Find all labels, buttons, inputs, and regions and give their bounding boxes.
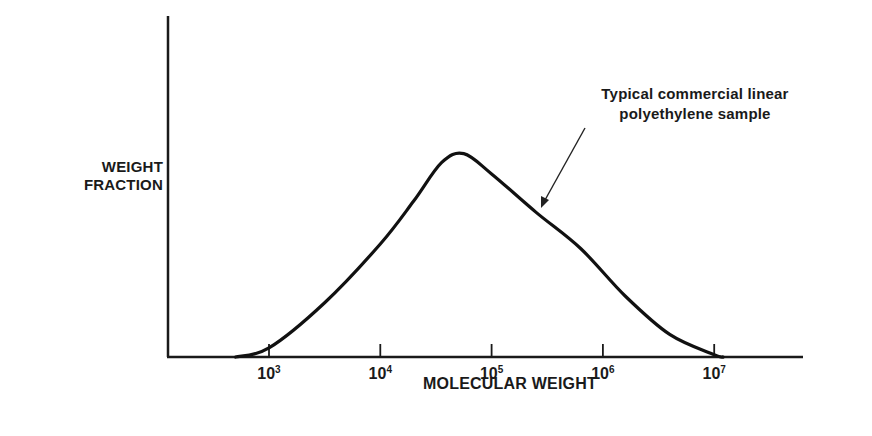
- x-tick-label: 104: [360, 364, 400, 383]
- x-tick-label: 107: [694, 364, 734, 383]
- chart-plot-area: [0, 0, 872, 436]
- x-tick-label: 103: [249, 364, 289, 383]
- distribution-curve: [236, 153, 723, 357]
- annotation-arrow: [545, 128, 585, 200]
- x-tick-label: 106: [583, 364, 623, 383]
- x-axis-ticks: [269, 344, 714, 357]
- annotation-line-2: polyethylene sample: [555, 104, 835, 124]
- y-axis-label: WEIGHTFRACTION: [83, 158, 163, 194]
- y-axis-label-text: WEIGHTFRACTION: [83, 158, 163, 194]
- annotation-line-1: Typical commercial linear: [555, 84, 835, 104]
- curve-annotation: Typical commercial linear polyethylene s…: [555, 84, 835, 124]
- x-tick-label: 105: [472, 364, 512, 383]
- arrowhead-icon: [541, 196, 549, 208]
